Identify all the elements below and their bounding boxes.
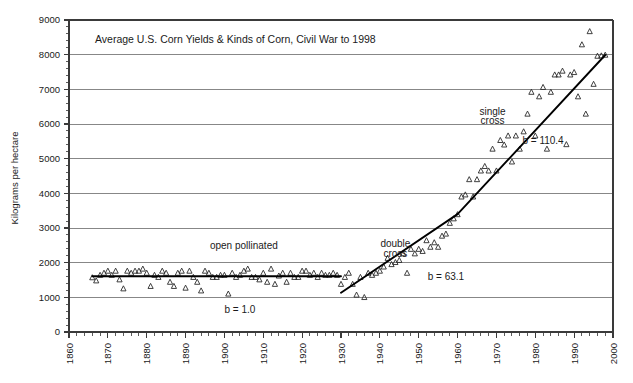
data-point-marker: [572, 69, 577, 74]
data-point-marker: [560, 68, 565, 73]
data-point-marker: [226, 291, 231, 296]
data-point-marker: [265, 279, 270, 284]
y-tick-label: 4000: [39, 188, 60, 199]
corn-yield-scatter-chart: 1860187018801890190019101920193019401950…: [0, 0, 633, 383]
y-tick-label: 8000: [39, 49, 60, 60]
data-point-marker: [540, 84, 545, 89]
x-tick-label: 1900: [219, 343, 230, 364]
data-point-marker: [125, 268, 130, 273]
y-tick-label: 1000: [39, 292, 60, 303]
trend-lines: [92, 55, 605, 293]
data-point-marker: [160, 268, 165, 273]
data-point-marker: [505, 133, 510, 138]
data-point-marker: [443, 231, 448, 236]
open-pollinated-slope: b = 1.0: [225, 304, 256, 315]
data-point-marker: [525, 111, 530, 116]
x-axis-tick-labels: 1860187018801890190019101920193019401950…: [64, 343, 619, 364]
data-point-marker: [587, 29, 592, 34]
data-point-marker: [474, 177, 479, 182]
data-point-marker: [183, 285, 188, 290]
data-point-marker: [529, 89, 534, 94]
data-point-marker: [261, 270, 266, 275]
data-point-marker: [199, 288, 204, 293]
data-point-marker: [548, 89, 553, 94]
data-point-marker: [148, 283, 153, 288]
data-point-marker: [354, 292, 359, 297]
data-point-marker: [187, 268, 192, 273]
data-point-marker: [280, 270, 285, 275]
gridlines: [69, 20, 613, 297]
y-tick-label: 6000: [39, 118, 60, 129]
data-point-marker: [513, 133, 518, 138]
data-point-marker: [331, 270, 336, 275]
y-axis-tick-labels: 0100020003000400050006000700080009000: [39, 14, 60, 337]
data-point-marker: [288, 270, 293, 275]
chart-title: Average U.S. Corn Yields & Kinds of Corn…: [95, 33, 376, 45]
data-point-marker: [311, 270, 316, 275]
y-tick-label: 0: [55, 326, 60, 337]
data-point-marker: [179, 268, 184, 273]
single-cross-slope: b = 110.4: [522, 135, 564, 146]
x-tick-label: 1930: [336, 343, 347, 364]
open-pollinated-label: open pollinated: [210, 240, 278, 251]
y-tick-label: 3000: [39, 222, 60, 233]
y-tick-label: 2000: [39, 257, 60, 268]
data-point-marker: [272, 281, 277, 286]
data-point-marker: [140, 266, 145, 271]
data-point-marker: [482, 163, 487, 168]
data-point-marker: [591, 81, 596, 86]
x-tick-label: 1960: [452, 343, 463, 364]
y-tick-label: 9000: [39, 14, 60, 25]
data-point-marker: [230, 270, 235, 275]
data-point-marker: [564, 142, 569, 147]
data-point-marker: [167, 279, 172, 284]
data-point-marker: [338, 281, 343, 286]
axis-lines: [69, 20, 613, 332]
y-tick-label: 7000: [39, 84, 60, 95]
data-point-markers: [90, 29, 608, 300]
data-point-marker: [202, 268, 207, 273]
data-point-marker: [432, 240, 437, 245]
x-tick-label: 1950: [413, 343, 424, 364]
data-point-marker: [537, 94, 542, 99]
data-point-marker: [121, 286, 126, 291]
x-tick-label: 1890: [180, 343, 191, 364]
single-cross-label-line2: cross: [481, 115, 505, 126]
y-axis-title: Kilograms per hectare: [9, 132, 20, 225]
data-point-marker: [463, 192, 468, 197]
data-point-marker: [416, 246, 421, 251]
data-point-marker: [467, 177, 472, 182]
x-tick-label: 1910: [258, 343, 269, 364]
data-point-marker: [404, 270, 409, 275]
x-tick-label: 1920: [297, 343, 308, 364]
data-point-marker: [579, 42, 584, 47]
data-point-marker: [105, 268, 110, 273]
x-tick-label: 1980: [530, 343, 541, 364]
data-point-marker: [583, 111, 588, 116]
data-point-marker: [544, 146, 549, 151]
data-point-marker: [498, 137, 503, 142]
data-point-marker: [490, 146, 495, 151]
x-tick-label: 1940: [374, 343, 385, 364]
x-tick-label: 2000: [608, 343, 619, 364]
data-point-marker: [346, 270, 351, 275]
data-point-marker: [195, 279, 200, 284]
data-point-marker: [575, 94, 580, 99]
x-tick-label: 1860: [64, 343, 75, 364]
data-point-marker: [268, 266, 273, 271]
x-tick-label: 1870: [102, 343, 113, 364]
x-tick-label: 1880: [141, 343, 152, 364]
data-point-marker: [521, 129, 526, 134]
data-point-marker: [284, 279, 289, 284]
data-point-marker: [303, 268, 308, 273]
double-cross-label-line2: cross: [383, 248, 407, 259]
x-tick-label: 1990: [569, 343, 580, 364]
chart-container: 1860187018801890190019101920193019401950…: [0, 0, 633, 383]
data-point-marker: [424, 238, 429, 243]
data-point-marker: [113, 268, 118, 273]
x-tick-label: 1970: [491, 343, 502, 364]
data-point-marker: [509, 159, 514, 164]
axis-ticks: [64, 20, 613, 338]
double-cross-slope: b = 63.1: [428, 271, 465, 282]
y-tick-label: 5000: [39, 153, 60, 164]
